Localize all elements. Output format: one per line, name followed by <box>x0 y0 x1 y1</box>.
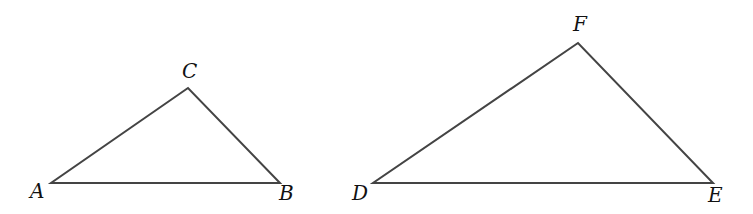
triangle-def <box>373 43 713 183</box>
triangle-abc <box>51 88 280 183</box>
vertex-label-c: C <box>182 59 197 83</box>
vertex-label-b: B <box>278 181 294 205</box>
vertex-label-a: A <box>28 179 44 203</box>
diagram-svg: A B C D E F <box>0 0 753 214</box>
triangles-diagram: A B C D E F <box>0 0 753 214</box>
vertex-label-f: F <box>572 12 588 36</box>
vertex-label-d: D <box>351 181 368 205</box>
vertex-label-e: E <box>707 183 723 207</box>
